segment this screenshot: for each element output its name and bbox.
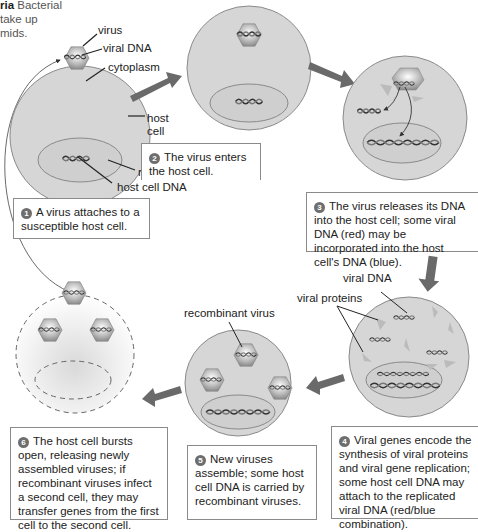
step5-text: New viruses assemble; some host cell DNA…	[195, 453, 304, 507]
label-host-cell-line2: cell	[147, 125, 164, 138]
step4-caption-box: 4Viral genes encode the synthesis of vir…	[331, 426, 478, 519]
step-number-badge: 5	[195, 455, 206, 466]
label-viral-proteins: viral proteins	[297, 292, 362, 305]
step4-text: Viral genes encode the synthesis of vira…	[339, 434, 471, 530]
step5-caption-box: 5New viruses assemble; some host cell DN…	[187, 445, 317, 520]
arrow-1-to-2	[130, 72, 182, 102]
step6-caption-box: 6The host cell bursts open, releasing ne…	[10, 427, 168, 520]
step3-caption-box: 3The virus releases its DNA into the hos…	[306, 192, 478, 252]
label-virus: virus	[98, 24, 122, 37]
step-number-badge: 4	[339, 436, 350, 447]
step1-caption-box: 1A virus attaches to a susceptible host …	[13, 198, 150, 239]
step2-caption-box: 2The virus enters the host cell.	[141, 143, 261, 180]
step6-text: The host cell bursts open, releasing new…	[18, 435, 159, 531]
label-recombinant-virus: recombinant virus	[184, 307, 275, 320]
step-number-badge: 6	[18, 437, 29, 448]
label-host-cell-line1: host	[147, 112, 169, 125]
step2-cell	[187, 6, 311, 130]
label-host-cell-dna: host cell DNA	[117, 181, 187, 194]
step4-cell	[337, 292, 469, 417]
step3-cell	[343, 56, 467, 180]
step5-cell	[185, 322, 292, 436]
step-number-badge: 3	[314, 202, 325, 213]
arrow-5-to-6	[142, 386, 182, 407]
arrow-4-to-5	[306, 374, 345, 395]
step6-cell	[16, 282, 134, 413]
step-number-badge: 1	[21, 208, 32, 219]
step1-text: A virus attaches to a susceptible host c…	[21, 206, 140, 232]
arrow-2-to-3	[308, 62, 355, 88]
label-cytoplasm: cytoplasm	[108, 61, 160, 74]
step-number-badge: 2	[149, 153, 160, 164]
label-viral-dna: viral DNA	[103, 42, 152, 55]
step2-text: The virus enters the host cell.	[149, 151, 246, 177]
arrow-3-to-4	[417, 255, 443, 294]
label-viral-dna-step4: viral DNA	[343, 272, 392, 285]
